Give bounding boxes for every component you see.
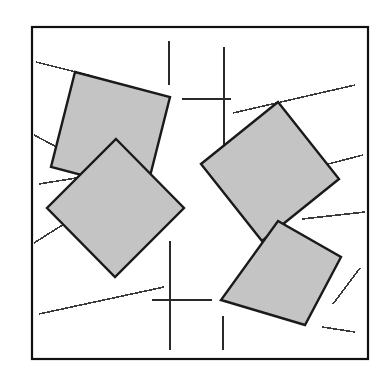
diagram-canvas xyxy=(0,0,388,385)
figure-root xyxy=(0,0,388,385)
